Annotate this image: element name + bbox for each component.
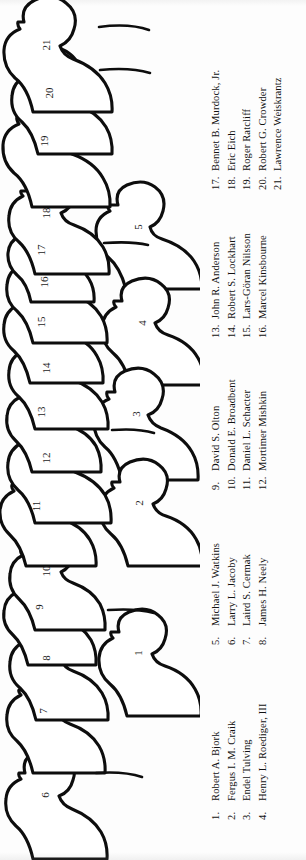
- legend-entry-name: Fergus I. M. Craik: [224, 721, 240, 801]
- shoulder-stroke-top-1: [99, 26, 149, 30]
- legend-entry-number: 7.: [239, 626, 255, 645]
- legend-entry-name: Robert G. Crowder: [255, 88, 271, 171]
- legend-entry-name: John R. Anderson: [208, 242, 224, 319]
- legend-entry-number: 14.: [224, 319, 240, 338]
- legend-entry: 19. Roger Ratcliff: [239, 0, 255, 190]
- legend-entry-number: 16.: [255, 319, 271, 338]
- legend-entry-name: Roger Ratcliff: [239, 109, 255, 171]
- legend-entry-name: Bennet B. Murdock, Jr.: [208, 70, 224, 171]
- head-number-19: 19: [38, 135, 50, 147]
- legend-entry-number: 13.: [208, 319, 224, 338]
- scanned-page: 6 7 8 9 10 11 12 13 14 15 16 17 18 19 20…: [0, 0, 306, 860]
- legend-entry-name: Robert S. Lockhart: [224, 236, 240, 319]
- head-number-17: 17: [35, 244, 47, 256]
- legend-entry-number: 12.: [255, 471, 271, 490]
- legend-entry-number: 11.: [239, 471, 255, 490]
- head-number-4: 4: [136, 320, 148, 326]
- legend-entry-name: Eric Eich: [224, 130, 240, 171]
- head-number-2: 2: [133, 500, 145, 506]
- legend-entry: 2. Fergus I. M. Craik: [224, 630, 240, 820]
- legend-entry-name: Marcel Kinsbourne: [255, 235, 271, 319]
- legend-entry-name: Donald E. Broadbent: [224, 379, 240, 471]
- legend-entry: 1. Robert A. Bjork: [208, 630, 224, 820]
- silhouette-outline-svg: 6 7 8 9 10 11 12 13 14 15 16 17 18 19 20…: [0, 0, 200, 860]
- legend-entry-number: 3.: [239, 801, 255, 820]
- head-number-20: 20: [43, 87, 55, 99]
- legend-entry: 18. Eric Eich: [224, 0, 240, 190]
- legend-entry-number: 17.: [208, 171, 224, 190]
- legend-entry-name: Laird S. Cermak: [239, 554, 255, 626]
- legend-entry-number: 19.: [239, 171, 255, 190]
- group-photo-key-figure: 6 7 8 9 10 11 12 13 14 15 16 17 18 19 20…: [0, 0, 200, 860]
- legend-entry-number: 5.: [208, 626, 224, 645]
- head-number-10: 10: [40, 565, 52, 577]
- legend-entry-name: Endel Tulving: [239, 739, 255, 801]
- name-legend: 1. Robert A. Bjork 2. Fergus I. M. Craik…: [186, 0, 306, 860]
- head-number-6: 6: [39, 792, 51, 798]
- legend-entry: 20. Robert G. Crowder: [255, 0, 271, 190]
- head-number-13: 13: [35, 406, 47, 418]
- back-row-group: [0, 0, 112, 859]
- legend-entry: 17. Bennet B. Murdock, Jr.: [208, 0, 224, 190]
- head-number-11: 11: [30, 501, 42, 512]
- legend-entry-number: 8.: [255, 626, 271, 645]
- legend-entry: 3. Endel Tulving: [239, 630, 255, 820]
- legend-entry-name: David S. Olton: [208, 406, 224, 471]
- head-number-18: 18: [40, 207, 52, 219]
- silhouette-5: [96, 182, 200, 289]
- legend-entry-number: 15.: [239, 319, 255, 338]
- head-number-16: 16: [38, 276, 50, 288]
- legend-column-1: 1. Robert A. Bjork 2. Fergus I. M. Craik…: [208, 630, 270, 820]
- legend-entry-number: 9.: [208, 471, 224, 490]
- head-number-1: 1: [132, 650, 144, 656]
- legend-entry-name: Lawrence Weiskrantz: [270, 77, 286, 171]
- head-number-3: 3: [130, 411, 142, 417]
- head-number-21: 21: [40, 40, 52, 51]
- legend-entry-name: Larry L. Jacoby: [224, 557, 240, 626]
- head-number-7: 7: [37, 708, 49, 714]
- legend-entry-name: Lars-Göran Nilsson: [239, 233, 255, 319]
- head-number-8: 8: [40, 655, 52, 661]
- shoulder-stroke-top-2: [100, 69, 150, 73]
- legend-entry-number: 10.: [224, 471, 240, 490]
- legend-entry-name: Daniel L. Schacter: [239, 390, 255, 471]
- legend-entry-name: James H. Neely: [255, 558, 271, 626]
- legend-entry-number: 4.: [255, 801, 271, 820]
- head-number-9: 9: [33, 604, 45, 610]
- legend-entry-number: 6.: [224, 626, 240, 645]
- legend-entry-name: Robert A. Bjork: [208, 731, 224, 801]
- head-number-15: 15: [35, 316, 47, 328]
- legend-entry-name: Henry L. Roediger, III: [255, 703, 271, 801]
- legend-entry-number: 2.: [224, 801, 240, 820]
- shoulder-stroke-bottom-1: [96, 773, 142, 778]
- legend-entry-number: 18.: [224, 171, 240, 190]
- silhouette-1: [99, 609, 200, 716]
- legend-entry-number: 20.: [255, 171, 271, 190]
- head-number-14: 14: [40, 362, 52, 374]
- legend-entry: 4. Henry L. Roediger, III: [255, 630, 271, 820]
- legend-entry: 21. Lawrence Weiskrantz: [270, 0, 286, 190]
- legend-column-5: 17. Bennet B. Murdock, Jr. 18. Eric Eich…: [208, 0, 286, 190]
- legend-entry-name: Mortimer Mishkin: [255, 391, 271, 471]
- legend-entry-number: 1.: [208, 801, 224, 820]
- head-number-5: 5: [132, 224, 144, 230]
- legend-entry-number: 21.: [270, 171, 286, 190]
- head-number-12: 12: [40, 453, 52, 464]
- legend-entry-name: Michael J. Watkins: [208, 543, 224, 626]
